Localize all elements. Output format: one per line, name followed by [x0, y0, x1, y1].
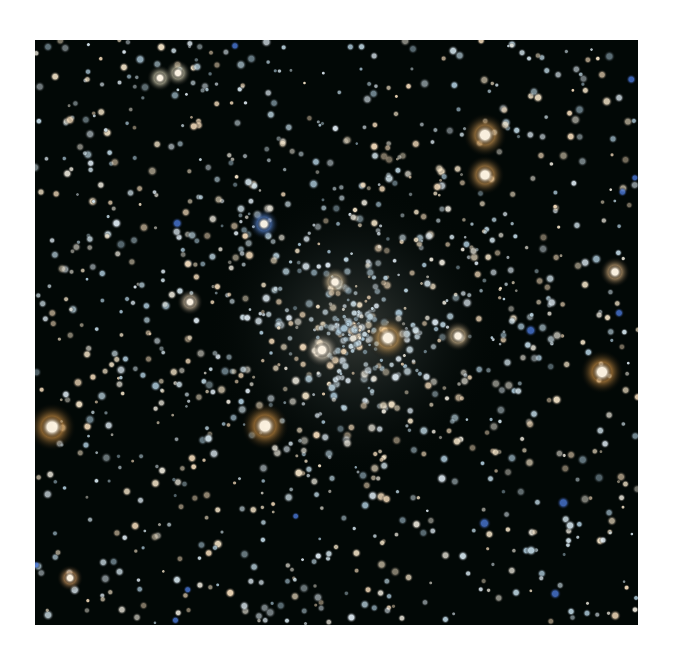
star-cluster-image: [35, 40, 638, 625]
star-field: [35, 40, 638, 625]
